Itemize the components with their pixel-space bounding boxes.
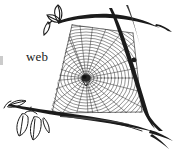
illustration-canvas bbox=[0, 0, 174, 151]
web-label: web bbox=[26, 50, 48, 63]
illustration-figure: web bbox=[0, 0, 174, 151]
top-leaf-cluster bbox=[44, 5, 62, 35]
cropped-edge-mark bbox=[0, 56, 3, 65]
